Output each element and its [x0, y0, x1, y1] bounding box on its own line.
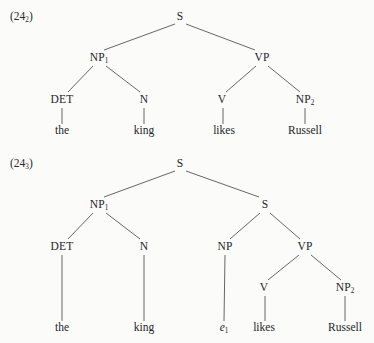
node-v: V [218, 94, 227, 106]
edge-np1-n [106, 213, 140, 239]
example-number-tag: (243) [10, 158, 33, 170]
stem-np-trace [224, 255, 225, 321]
edge-s-np1 [104, 171, 175, 197]
subscript: 2 [351, 287, 355, 295]
syntax-tree-figure-container: (242)SNP1VPDETNVNP2thekinglikesRussell(2… [0, 0, 374, 343]
edge-np1-n [106, 66, 140, 92]
node-v: V [260, 282, 269, 294]
edge-vp-v [226, 66, 256, 92]
node-np: NP [217, 241, 232, 253]
node-np1: NP1 [90, 52, 109, 64]
terminal-king: king [134, 322, 154, 334]
edge-sembedded-np [230, 213, 260, 239]
terminal-likes: likes [253, 322, 275, 334]
node-np2: NP2 [336, 282, 355, 294]
node-det: DET [51, 241, 74, 253]
node-s-root: S [177, 11, 184, 23]
node-np2: NP2 [296, 94, 315, 106]
node-n: N [140, 94, 149, 106]
subscript: 1 [225, 327, 229, 335]
terminal-king: king [134, 125, 154, 137]
edge-s-np1 [104, 24, 175, 50]
node-det: DET [51, 94, 74, 106]
node-n: N [140, 241, 149, 253]
terminal-likes: likes [213, 125, 235, 137]
edge-vp-np2 [268, 66, 300, 92]
edge-vp-np2 [311, 255, 341, 280]
node-s-root: S [177, 158, 184, 170]
subscript: 3 [25, 163, 29, 171]
edge-np1-det [68, 66, 93, 92]
edge-s-sembedded [186, 171, 259, 197]
subscript: 2 [25, 16, 29, 24]
node-np1: NP1 [90, 199, 109, 211]
tree-edge-lines [0, 0, 374, 343]
terminal-the: the [55, 322, 69, 334]
example-number-tag: (242) [10, 11, 33, 23]
subscript: 1 [105, 57, 109, 65]
subscript: 2 [311, 99, 315, 107]
terminal-the: the [55, 125, 69, 137]
terminal-trace: e1 [220, 322, 229, 334]
edge-sembedded-vp [270, 213, 300, 239]
subscript: 1 [105, 204, 109, 212]
edge-vp-v [268, 255, 299, 280]
node-vp: VP [254, 52, 269, 64]
node-vp: VP [297, 241, 312, 253]
terminal-russell: Russell [328, 322, 362, 334]
terminal-russell: Russell [288, 125, 322, 137]
node-s-embedded: S [262, 199, 269, 211]
edge-np1-det [68, 213, 93, 239]
edge-s-vp [186, 24, 255, 50]
